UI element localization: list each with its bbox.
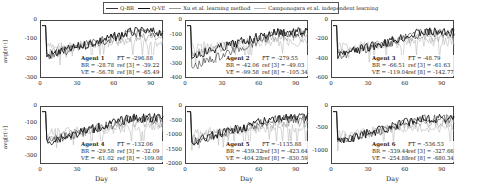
stat-br: BR = -42.06 [226,62,262,69]
y-tick-label: -500 [160,117,182,123]
y-tick-label: -200 [306,35,328,41]
stat-br: BR = -339.44 [372,148,408,155]
y-tick-label: -400 [306,55,328,61]
x-tick-label: 90 [434,80,450,86]
x-tick-label: 90 [434,166,450,172]
agent-label: Agent 3 [372,55,395,61]
y-tick-label: -200 [15,55,37,61]
stat-ref8: ref [8] = -105.34 [262,69,308,76]
x-tick-label: 60 [251,80,267,86]
stats-annotation: Agent 5FT = -1135.88BR = -439.32ref [3] … [226,141,308,162]
x-axis-label: Day [82,175,122,183]
stat-ref8: ref [8] = -109.08 [117,155,163,162]
x-tick-label: 30 [214,166,230,172]
stat-ref8: ref [8] = -65.49 [117,69,159,76]
stats-annotation: Agent 3FT = -48.79BR = -66.51ref [3] = -… [372,55,454,76]
y-tick-label: 0 [15,102,37,108]
stat-ve: VE = -99.58 [226,69,262,76]
chart-legend: Q-BR Q-VE Xu et al. learning method Camp… [103,2,339,14]
line-swatch-icon [254,8,266,9]
x-tick-label: 90 [288,80,304,86]
y-tick-label: 0 [306,16,328,22]
stat-ve: VE = -61.02 [81,155,117,162]
agent-label: Agent 6 [372,141,395,147]
agent-label: Agent 5 [226,141,249,147]
x-tick-label: 0 [32,80,48,86]
stat-ref3: ref [3] = -49.03 [262,62,304,69]
x-tick-label: 0 [177,166,193,172]
x-tick-label: 90 [143,166,159,172]
x-axis-label: Day [373,175,413,183]
stat-ref3: ref [3] = -39.22 [117,62,159,69]
y-tick-label: -200 [160,45,182,51]
stat-br: BR = -66.51 [372,62,408,69]
agent-label: Agent 2 [226,55,249,61]
x-tick-label: 30 [69,166,85,172]
stat-ref8: ref [8] = -830.59 [262,155,308,162]
y-tick-label: -1500 [160,146,182,152]
x-tick-label: 30 [214,80,230,86]
stat-ft: FT = -536.53 [408,141,444,148]
y-tick-label: -500 [306,124,328,130]
x-tick-label: 90 [143,80,159,86]
legend-item-q-ve: Q-VE [138,5,165,11]
agent-label: Agent 4 [81,141,104,147]
stat-ft: FT = -132.06 [117,141,153,148]
y-tick-label: -100 [160,31,182,37]
stats-annotation: Agent 2FT = -279.55BR = -42.06ref [3] = … [226,55,308,76]
y-tick-label: -200 [15,135,37,141]
legend-label: Q-VE [152,5,165,11]
stats-annotation: Agent 4FT = -132.06BR = -29.58ref [3] = … [81,141,163,162]
x-tick-label: 60 [106,166,122,172]
stat-ref3: ref [3] = -327.66 [408,148,454,155]
y-tick-label: -1000 [306,147,328,153]
stat-ref8: ref [8] = -142.77 [408,69,454,76]
legend-item-xu: Xu et al. learning method [169,5,250,11]
stat-ve: VE = -56.78 [81,69,117,76]
stats-annotation: Agent 1FT = -296.88BR = -28.78ref [3] = … [81,55,159,76]
y-axis-label: avg[r(·)] [2,126,8,149]
stat-ref3: ref [3] = -61.63 [408,62,450,69]
stat-ref3: ref [3] = -32.09 [117,148,159,155]
stat-br: BR = -439.32 [226,148,262,155]
stat-ft: FT = -48.79 [408,55,441,62]
x-tick-label: 60 [397,80,413,86]
stat-br: BR = -29.58 [81,148,117,155]
stat-ref8: ref [8] = -680.34 [408,155,454,162]
y-tick-label: -100 [15,119,37,125]
y-tick-label: 0 [160,16,182,22]
line-swatch-icon [106,8,118,9]
y-axis-label: avg[r(·)] [2,40,8,63]
x-axis-label: Day [227,175,267,183]
y-tick-label: 0 [15,16,37,22]
line-swatch-icon [169,8,181,9]
x-tick-label: 60 [251,166,267,172]
x-tick-label: 30 [360,80,376,86]
stat-ve: VE = -254.88 [372,155,408,162]
y-tick-label: -100 [15,35,37,41]
y-tick-label: -300 [160,60,182,66]
x-tick-label: 0 [177,80,193,86]
x-tick-label: 30 [69,80,85,86]
y-tick-label: 0 [306,102,328,108]
x-tick-label: 30 [360,166,376,172]
stat-ref3: ref [3] = -423.64 [262,148,308,155]
stat-ft: FT = -1135.88 [262,141,301,148]
x-tick-label: 60 [397,166,413,172]
x-tick-label: 60 [106,80,122,86]
legend-label: Xu et al. learning method [183,5,250,11]
stat-ft: FT = -279.55 [262,55,298,62]
stat-ve: VE = -119.04 [372,69,408,76]
y-tick-label: -300 [15,152,37,158]
y-tick-label: 0 [160,102,182,108]
y-tick-label: -1000 [160,131,182,137]
legend-label: Camponogara et al. independent learning [268,5,378,11]
legend-item-camponogara: Camponogara et al. independent learning [254,5,378,11]
line-swatch-icon [138,8,150,9]
stat-ve: VE = -404.28 [226,155,262,162]
legend-item-q-br: Q-BR [106,5,134,11]
stats-annotation: Agent 6FT = -536.53BR = -339.44ref [3] =… [372,141,454,162]
stat-br: BR = -28.78 [81,62,117,69]
stat-ft: FT = -296.88 [117,55,153,62]
legend-label: Q-BR [120,5,134,11]
